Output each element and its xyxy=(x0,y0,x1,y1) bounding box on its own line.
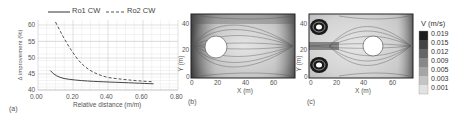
c-x-axis-label: X (m) xyxy=(355,87,371,94)
flow-field-c xyxy=(309,14,413,78)
y-tick-50: 50 xyxy=(28,54,35,61)
colorbar-label-6: 0.001 xyxy=(431,84,449,91)
y-tick-55: 55 xyxy=(28,38,35,45)
legend-series2-label: Ro2 CW xyxy=(127,6,155,15)
colorbar-label-1: 0.015 xyxy=(431,39,449,46)
colorbar-label-4: 0.005 xyxy=(431,66,449,73)
c-x-tick-60: 60 xyxy=(389,79,396,86)
b-y-tick-20: 20 xyxy=(182,46,189,53)
c-y-tick-40: 40 xyxy=(300,20,307,27)
plot-area xyxy=(38,20,178,91)
b-x-tick-60: 60 xyxy=(270,79,277,86)
obstacle-circle-b xyxy=(205,36,227,58)
x-tick-0-00: 0.00 xyxy=(30,93,43,100)
y-axis-label: Δ improvement (%) xyxy=(17,25,23,85)
b-y-tick-40: 40 xyxy=(182,20,189,27)
x-tick-0-60: 0.60 xyxy=(135,93,148,100)
b-x-tick-40: 40 xyxy=(242,79,249,86)
legend-series1-label: Ro1 CW xyxy=(72,6,100,15)
legend-solid-line-icon xyxy=(48,10,72,14)
legend-dashed-line-icon xyxy=(106,10,126,14)
colorbar-label-0: 0.019 xyxy=(431,30,449,37)
c-y-tick-0: 0 xyxy=(304,73,308,80)
c-x-tick-40: 40 xyxy=(360,79,367,86)
x-tick-0-20: 0.20 xyxy=(66,93,79,100)
b-x-axis-label: X (m) xyxy=(237,87,253,94)
panel-label-a: (a) xyxy=(9,105,18,112)
c-y-axis-label: Y (m) xyxy=(295,56,302,72)
vortex-top-left xyxy=(310,19,328,35)
panel-label-b: (b) xyxy=(188,98,197,105)
colorbar-label-3: 0.009 xyxy=(431,57,449,64)
vortex-bottom-left xyxy=(310,57,328,73)
panel-label-c: (c) xyxy=(307,98,315,105)
c-x-tick-0: 0 xyxy=(309,79,313,86)
b-y-axis-label: Y (m) xyxy=(177,56,184,72)
colorbar-label-5: 0.003 xyxy=(431,75,449,82)
y-tick-45: 45 xyxy=(28,70,35,77)
colorbar-label-2: 0.012 xyxy=(431,48,449,55)
obstacle-circle-c xyxy=(363,36,383,56)
x-axis-label: Relative distance (m/m) xyxy=(73,101,141,108)
series-ro2-cw-line xyxy=(56,22,154,82)
c-y-tick-20: 20 xyxy=(300,46,307,53)
y-tick-60: 60 xyxy=(28,21,35,28)
colorbar-title: V (m/s) xyxy=(421,19,445,28)
c-x-tick-20: 20 xyxy=(333,79,340,86)
b-x-tick-20: 20 xyxy=(214,79,221,86)
b-x-tick-0: 0 xyxy=(190,79,194,86)
y-tick-40: 40 xyxy=(28,86,35,93)
x-tick-0-80: 0.80 xyxy=(170,93,183,100)
colorbar-gradient xyxy=(419,31,429,94)
x-tick-0-40: 0.40 xyxy=(100,93,113,100)
flow-field-b xyxy=(191,14,295,78)
